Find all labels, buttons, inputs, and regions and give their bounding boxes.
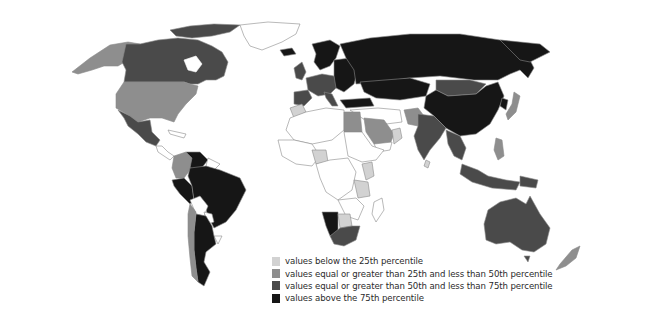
legend-item-q1: values below the 25th percentile bbox=[272, 255, 552, 267]
region-japan[interactable] bbox=[506, 92, 520, 120]
region-sri-lanka[interactable] bbox=[424, 160, 430, 168]
region-central-africa[interactable] bbox=[316, 158, 356, 200]
region-iceland[interactable] bbox=[280, 48, 296, 56]
legend-item-q4: values above the 75th percentile bbox=[272, 292, 552, 304]
region-caribbean bbox=[168, 130, 186, 138]
region-tanzania[interactable] bbox=[354, 180, 370, 198]
legend-swatch-q4 bbox=[272, 294, 280, 303]
legend-label-q1: values below the 25th percentile bbox=[285, 256, 423, 266]
region-australia[interactable] bbox=[484, 196, 550, 252]
region-central-asia[interactable] bbox=[360, 78, 430, 100]
region-spain[interactable] bbox=[294, 90, 312, 106]
region-madagascar[interactable] bbox=[372, 198, 384, 222]
region-central-america[interactable] bbox=[156, 146, 174, 160]
region-botswana[interactable] bbox=[338, 214, 352, 228]
legend-swatch-q1 bbox=[272, 257, 280, 266]
legend-swatch-q3 bbox=[272, 281, 280, 290]
region-philippines[interactable] bbox=[494, 138, 504, 160]
region-uk-ireland[interactable] bbox=[294, 62, 306, 80]
region-indonesia[interactable] bbox=[460, 164, 520, 190]
region-egypt[interactable] bbox=[344, 112, 362, 132]
region-new-zealand[interactable] bbox=[556, 246, 580, 270]
legend-label-q4: values above the 75th percentile bbox=[285, 293, 424, 303]
legend-label-q3: values equal or greater than 50th and le… bbox=[285, 281, 552, 291]
region-oman[interactable] bbox=[392, 128, 402, 144]
legend-swatch-q2 bbox=[272, 269, 280, 278]
region-western-europe[interactable] bbox=[306, 74, 338, 96]
region-italy[interactable] bbox=[324, 92, 338, 106]
region-canada[interactable] bbox=[122, 38, 228, 84]
map-legend: values below the 25th percentile values … bbox=[272, 255, 552, 305]
legend-item-q3: values equal or greater than 50th and le… bbox=[272, 280, 552, 292]
legend-item-q2: values equal or greater than 25th and le… bbox=[272, 267, 552, 279]
region-turkey[interactable] bbox=[340, 98, 374, 108]
region-canadian-arctic[interactable] bbox=[170, 24, 240, 38]
region-kenya[interactable] bbox=[362, 162, 374, 180]
legend-label-q2: values equal or greater than 25th and le… bbox=[285, 269, 552, 279]
region-greenland[interactable] bbox=[240, 22, 300, 50]
region-new-guinea[interactable] bbox=[520, 176, 538, 188]
